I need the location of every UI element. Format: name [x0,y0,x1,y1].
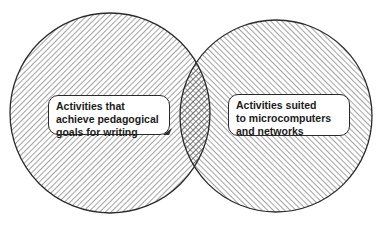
right-label-line-3: and networks [236,125,343,138]
left-label-line-2: achieve pedagogical [56,113,163,126]
right-label-line-2: to microcomputers [236,112,343,125]
right-label-line-1: Activities suited [236,99,343,112]
left-label-line-1: Activities that [56,100,163,113]
right-set-label: Activities suited to microcomputers and … [228,94,350,136]
left-label-line-3: goals for writing [56,126,163,139]
left-set-label: Activities that achieve pedagogical goal… [48,95,170,135]
